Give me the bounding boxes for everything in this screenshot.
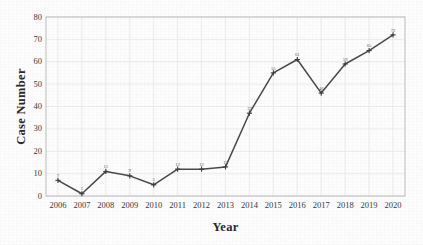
data-point-label: 1 bbox=[81, 186, 84, 191]
chart-figure: Case Number Year 01020304050607080 20062… bbox=[0, 0, 423, 245]
data-point-label: 65 bbox=[367, 43, 372, 48]
data-point-label: 61 bbox=[295, 52, 300, 57]
data-point-label: 72 bbox=[391, 28, 396, 33]
data-point-marker bbox=[127, 173, 132, 178]
data-point-marker bbox=[223, 164, 228, 169]
data-point-label: 12 bbox=[199, 162, 204, 167]
data-point-label: 5 bbox=[153, 177, 156, 182]
data-point-label: 59 bbox=[343, 57, 348, 62]
data-point-label: 37 bbox=[247, 106, 252, 111]
data-point-label: 46 bbox=[319, 86, 324, 91]
line-plot: 71119512121337556146596572 bbox=[0, 0, 423, 245]
data-point-label: 13 bbox=[223, 160, 228, 165]
data-point-label: 55 bbox=[271, 66, 276, 71]
data-point-marker bbox=[199, 167, 204, 172]
data-point-label: 9 bbox=[129, 168, 132, 173]
data-point-label: 12 bbox=[175, 162, 180, 167]
data-point-label: 11 bbox=[104, 164, 109, 169]
